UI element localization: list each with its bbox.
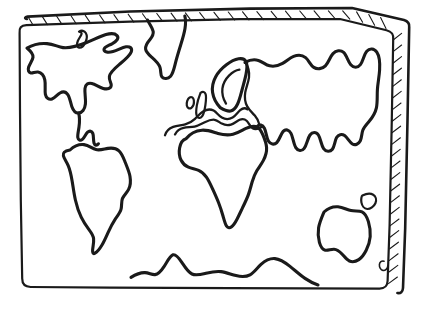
- map-drawing-canvas: [0, 0, 437, 309]
- world-map-illustration: World Map: [0, 0, 437, 309]
